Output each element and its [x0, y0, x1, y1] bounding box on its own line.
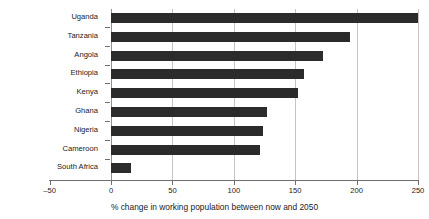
category-label-kenya: Kenya [76, 87, 98, 97]
gridline-250 [418, 9, 419, 180]
category-axis-labels: UgandaTanzaniaAngolaEthiopiaKenyaGhanaNi… [0, 8, 103, 180]
bar-ghana [111, 107, 267, 117]
bar-angola [111, 51, 323, 61]
category-label-tanzania: Tanzania [68, 31, 98, 41]
category-axis-tick [105, 83, 110, 84]
x-tick-label-150: 150 [275, 186, 315, 195]
clipped-title-remnant [30, 0, 330, 2]
x-tick-50 [172, 181, 173, 185]
x-tick-label-0: 0 [91, 186, 131, 195]
category-axis-tick [105, 65, 110, 66]
x-tick--50 [50, 181, 51, 185]
x-tick-label-100: 100 [214, 186, 254, 195]
plot-area [111, 9, 418, 180]
x-axis-title: % change in working population between n… [0, 202, 429, 213]
bar-kenya [111, 88, 298, 98]
x-tick-label-50: 50 [152, 186, 192, 195]
bar-tanzania [111, 32, 350, 42]
bar-chart: UgandaTanzaniaAngolaEthiopiaKenyaGhanaNi… [0, 0, 429, 219]
category-label-south-africa: South Africa [57, 162, 98, 172]
category-label-ethiopia: Ethiopia [71, 68, 98, 78]
x-tick-label--50: –50 [30, 186, 70, 195]
category-axis-tick [105, 121, 110, 122]
category-label-cameroon: Cameroon [63, 144, 98, 154]
gridline-200 [357, 9, 358, 180]
bar-uganda [111, 13, 418, 23]
bar-south-africa [111, 163, 131, 173]
category-axis-tick [105, 102, 110, 103]
x-tick-0 [111, 181, 112, 185]
category-label-uganda: Uganda [71, 12, 98, 22]
category-axis-tick [105, 27, 110, 28]
category-label-nigeria: Nigeria [74, 125, 98, 135]
x-tick-label-250: 250 [398, 186, 429, 195]
x-tick-label-200: 200 [337, 186, 377, 195]
category-axis-tick [105, 159, 110, 160]
category-label-angola: Angola [74, 50, 98, 60]
bar-nigeria [111, 126, 263, 136]
category-label-ghana: Ghana [75, 106, 98, 116]
bar-ethiopia [111, 69, 304, 79]
x-tick-200 [357, 181, 358, 185]
category-axis-tick [105, 46, 110, 47]
category-axis-tick [105, 140, 110, 141]
x-tick-250 [418, 181, 419, 185]
x-tick-150 [295, 181, 296, 185]
x-tick-100 [234, 181, 235, 185]
bar-cameroon [111, 145, 260, 155]
